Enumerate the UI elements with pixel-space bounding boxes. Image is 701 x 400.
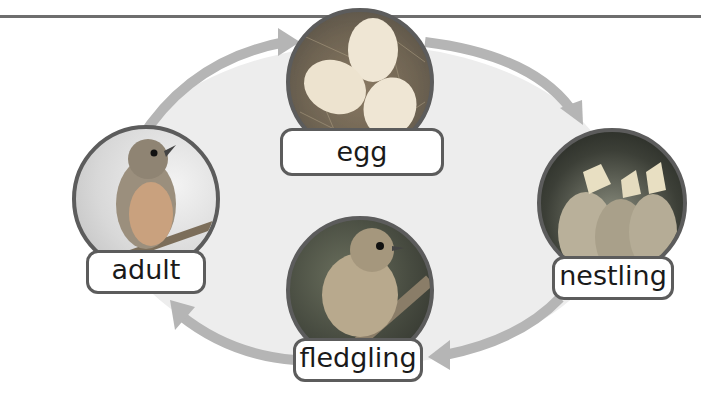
stage-label-fledgling: fledgling (293, 338, 423, 382)
stage-label-nestling: nestling (552, 256, 674, 300)
nestlings-icon (541, 132, 683, 274)
stage-label-egg: egg (280, 128, 444, 176)
stage-label-adult: adult (86, 250, 206, 294)
adult-bird-icon (76, 129, 216, 269)
